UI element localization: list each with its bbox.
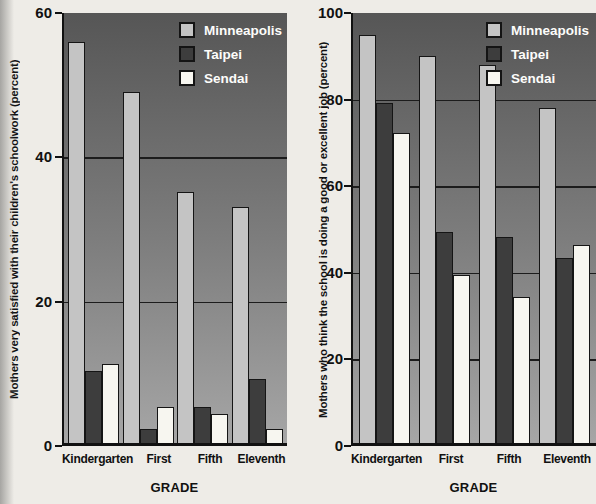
legend-swatch-sendai	[486, 70, 502, 86]
category-label-kindergarten: Kindergarten	[62, 452, 133, 466]
legend-item-taipei: Taipei	[486, 46, 589, 62]
bar-minneapolis-fifth	[177, 192, 194, 443]
bar-sendai-fifth	[211, 414, 228, 443]
y-tick-mark-60	[344, 185, 351, 187]
legend-swatch-taipei	[179, 46, 195, 62]
legend-label-minneapolis: Minneapolis	[511, 23, 589, 38]
bar-sendai-eleventh	[266, 429, 283, 443]
bar-minneapolis-fifth	[479, 65, 496, 443]
legend-label-taipei: Taipei	[511, 47, 549, 62]
legend-label-taipei: Taipei	[204, 47, 242, 62]
bar-minneapolis-first	[123, 92, 140, 443]
legend-item-taipei: Taipei	[179, 46, 282, 62]
x-axis-title: GRADE	[62, 480, 287, 495]
bar-taipei-first	[436, 232, 453, 443]
y-tick-label-20: 20	[22, 293, 52, 310]
x-axis-category-labels: KindergartenFirstFifthEleventh	[62, 452, 287, 466]
bar-sendai-first	[157, 407, 174, 443]
bar-taipei-kindergarten	[376, 103, 393, 443]
plot-area: MinneapolisTaipeiSendai	[62, 13, 287, 446]
bar-group-kindergarten	[355, 13, 415, 443]
y-tick-mark-100	[344, 12, 351, 14]
bar-sendai-eleventh	[573, 245, 590, 443]
bar-taipei-eleventh	[249, 379, 266, 444]
category-label-fifth: Fifth	[184, 452, 235, 466]
y-axis-title: Mothers who think the school is doing a …	[317, 13, 329, 446]
legend: MinneapolisTaipeiSendai	[486, 22, 589, 86]
legend-swatch-sendai	[179, 70, 195, 86]
y-tick-mark-60	[55, 12, 62, 14]
bar-sendai-first	[453, 275, 470, 443]
bar-minneapolis-eleventh	[232, 207, 249, 444]
y-tick-label-60: 60	[22, 4, 52, 21]
y-tick-mark-20	[55, 301, 62, 303]
legend-item-minneapolis: Minneapolis	[179, 22, 282, 38]
legend-swatch-minneapolis	[179, 22, 195, 38]
legend-label-sendai: Sendai	[511, 71, 555, 86]
legend-swatch-taipei	[486, 46, 502, 62]
y-tick-mark-80	[344, 99, 351, 101]
category-label-eleventh: Eleventh	[538, 452, 596, 466]
legend-item-minneapolis: Minneapolis	[486, 22, 589, 38]
legend: MinneapolisTaipeiSendai	[179, 22, 282, 86]
category-label-first: First	[133, 452, 184, 466]
figure-page: Mothers very satisfied with their childr…	[0, 0, 596, 504]
y-tick-mark-0	[344, 445, 351, 447]
legend-item-sendai: Sendai	[486, 70, 589, 86]
y-tick-label-0: 0	[22, 437, 52, 454]
bar-taipei-fifth	[194, 407, 211, 443]
y-axis-title: Mothers very satisfied with their childr…	[8, 13, 20, 446]
bar-sendai-kindergarten	[393, 133, 410, 443]
bar-group-kindergarten	[66, 13, 121, 443]
bar-group-first	[415, 13, 475, 443]
chart-school-rating: Mothers who think the school is doing a …	[298, 0, 596, 504]
x-axis-title: GRADE	[351, 480, 596, 495]
bar-taipei-kindergarten	[85, 371, 102, 443]
bar-minneapolis-kindergarten	[68, 42, 85, 443]
plot-area: MinneapolisTaipeiSendai	[351, 13, 596, 446]
bar-minneapolis-kindergarten	[359, 35, 376, 444]
legend-label-sendai: Sendai	[204, 71, 248, 86]
bar-taipei-first	[140, 429, 157, 443]
legend-label-minneapolis: Minneapolis	[204, 23, 282, 38]
y-tick-mark-0	[55, 445, 62, 447]
y-tick-label-40: 40	[22, 148, 52, 165]
bar-taipei-eleventh	[556, 258, 573, 443]
bar-sendai-fifth	[513, 297, 530, 443]
category-label-kindergarten: Kindergarten	[351, 452, 422, 466]
bar-group-first	[121, 13, 176, 443]
bar-minneapolis-first	[419, 56, 436, 443]
y-tick-mark-40	[344, 272, 351, 274]
chart-satisfaction: Mothers very satisfied with their childr…	[0, 0, 298, 504]
legend-swatch-minneapolis	[486, 22, 502, 38]
x-axis-category-labels: KindergartenFirstFifthEleventh	[351, 452, 596, 466]
y-tick-mark-20	[344, 358, 351, 360]
legend-item-sendai: Sendai	[179, 70, 282, 86]
category-label-fifth: Fifth	[480, 452, 538, 466]
bar-taipei-fifth	[496, 237, 513, 443]
bar-sendai-kindergarten	[102, 364, 119, 443]
category-label-eleventh: Eleventh	[236, 452, 287, 466]
category-label-first: First	[422, 452, 480, 466]
bar-minneapolis-eleventh	[539, 108, 556, 443]
y-tick-mark-40	[55, 156, 62, 158]
